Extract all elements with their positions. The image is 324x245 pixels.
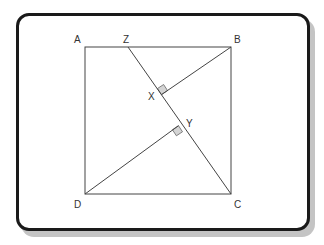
square-abcd <box>85 47 231 194</box>
label-b: B <box>234 34 241 45</box>
label-z: Z <box>123 34 129 45</box>
segment-bx <box>162 47 232 95</box>
label-y: Y <box>186 118 193 129</box>
label-x: X <box>148 91 155 102</box>
segment-zc <box>128 47 231 194</box>
right-angle-marker-y <box>172 126 182 136</box>
geometry-diagram: A Z B X Y D C <box>0 0 324 245</box>
label-d: D <box>74 199 81 210</box>
label-c: C <box>234 199 241 210</box>
label-a: A <box>74 34 81 45</box>
segment-dy <box>85 126 179 194</box>
right-angle-marker-x <box>158 85 168 95</box>
